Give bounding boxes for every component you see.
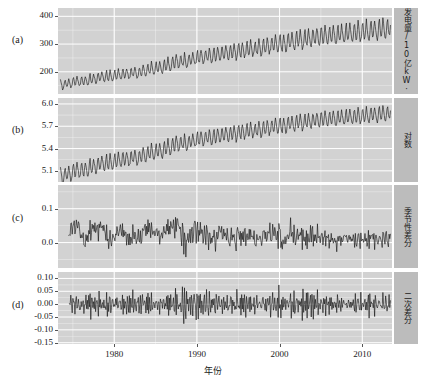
panel-c-plot	[58, 185, 392, 268]
y-axis-tick-mark	[55, 171, 58, 172]
panel-c-canvas	[58, 185, 392, 268]
panel-letter-b: (b)	[12, 124, 24, 135]
x-axis-tick-mark	[362, 344, 363, 347]
y-axis-tick-mark	[55, 278, 58, 279]
panel-strip-label-c: 季节性差分	[394, 185, 418, 268]
y-axis-tick-label: 0.05	[37, 286, 53, 295]
y-axis-tick-label: -0.05	[34, 312, 53, 321]
x-axis-tick-label: 2010	[346, 350, 378, 359]
y-axis-tick-label: 200	[40, 67, 54, 76]
y-axis-tick-label: -0.15	[34, 338, 53, 347]
y-axis-tick-mark	[55, 343, 58, 344]
timeseries-figure-panels: 200300400(a)月发电量/10亿kW·h5.15.45.76.0(b)对…	[0, 0, 426, 382]
y-axis-tick-mark	[55, 72, 58, 73]
y-axis-tick-mark	[55, 291, 58, 292]
panel-strip-label-a: 月发电量/10亿kW·h	[394, 8, 418, 94]
y-axis-tick-mark	[55, 304, 58, 305]
x-axis-tick-label: 1980	[98, 350, 130, 359]
panel-letter-d: (d)	[12, 299, 24, 310]
y-axis-tick-label: 5.1	[42, 166, 53, 175]
y-axis-tick-mark	[55, 209, 58, 210]
panel-b-canvas	[58, 98, 392, 182]
y-axis-tick-mark	[55, 317, 58, 318]
panel-d-canvas	[58, 272, 392, 344]
data-series-line	[60, 18, 390, 90]
panel-d-plot	[58, 272, 392, 344]
y-axis-tick-label: 5.7	[42, 121, 53, 130]
y-axis-tick-label: 0.0	[42, 238, 53, 247]
x-axis-tick-mark	[197, 344, 198, 347]
y-axis-tick-mark	[55, 104, 58, 105]
x-axis-tick-label: 1990	[181, 350, 213, 359]
panel-b-plot	[58, 98, 392, 182]
y-axis-tick-mark	[55, 16, 58, 17]
data-series-line	[69, 217, 391, 257]
panel-strip-label-b: 对数	[394, 98, 418, 182]
y-axis-tick-label: 0.10	[37, 273, 53, 282]
y-axis-tick-label: 5.4	[42, 144, 53, 153]
panel-letter-c: (c)	[12, 212, 23, 223]
y-axis-tick-label: 6.0	[42, 99, 53, 108]
y-axis-tick-label: 0.00	[37, 299, 53, 308]
panel-a-plot	[58, 8, 392, 94]
y-axis-tick-mark	[55, 126, 58, 127]
panel-strip-label-d: 二次差分	[394, 272, 418, 344]
y-axis-tick-label: 400	[40, 11, 54, 20]
y-axis-tick-label: -0.10	[34, 325, 53, 334]
x-axis-tick-label: 2000	[264, 350, 296, 359]
y-axis-tick-label: 0.1	[42, 204, 53, 213]
panel-letter-a: (a)	[12, 34, 23, 45]
data-series-line	[69, 285, 390, 324]
panel-a-canvas	[58, 8, 392, 94]
y-axis-tick-mark	[55, 149, 58, 150]
y-axis-tick-label: 300	[40, 39, 54, 48]
y-axis-tick-mark	[55, 243, 58, 244]
x-axis-title: 年份	[0, 364, 426, 377]
y-axis-tick-mark	[55, 330, 58, 331]
x-axis-tick-mark	[114, 344, 115, 347]
x-axis-tick-mark	[280, 344, 281, 347]
y-axis-tick-mark	[55, 44, 58, 45]
